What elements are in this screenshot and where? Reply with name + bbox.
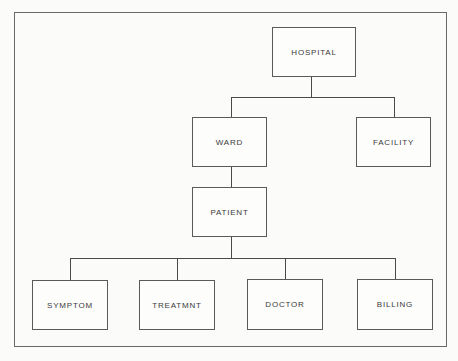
connector-ward-drop: [231, 97, 232, 117]
node-symptom-label: SYMPTOM: [47, 301, 93, 310]
node-ward-label: WARD: [216, 138, 243, 147]
node-treatmnt-label: TREATMNT: [152, 301, 201, 310]
node-ward: WARD: [192, 117, 267, 167]
node-symptom: SYMPTOM: [32, 280, 108, 330]
connector-hospital-stem: [311, 77, 312, 97]
connector-treatmnt-drop: [177, 258, 178, 280]
connector-facility-drop: [394, 97, 395, 117]
connector-patient-stem: [231, 237, 232, 258]
connector-symptom-drop: [70, 258, 71, 280]
node-facility: FACILITY: [356, 117, 431, 167]
node-doctor-label: DOCTOR: [265, 300, 304, 309]
node-patient-label: PATIENT: [210, 208, 248, 217]
node-facility-label: FACILITY: [373, 138, 414, 147]
connector-billing-drop: [395, 258, 396, 279]
connector-doctor-drop: [285, 258, 286, 279]
node-doctor: DOCTOR: [247, 279, 323, 330]
node-treatmnt: TREATMNT: [139, 280, 215, 330]
node-billing: BILLING: [357, 279, 433, 330]
connector-ward-patient: [231, 167, 232, 187]
node-hospital-label: HOSPITAL: [291, 48, 336, 57]
node-billing-label: BILLING: [377, 300, 413, 309]
node-hospital: HOSPITAL: [272, 27, 356, 77]
node-patient: PATIENT: [192, 187, 267, 237]
connector-hospital-bar: [231, 97, 395, 98]
connector-patient-bar: [70, 258, 396, 259]
